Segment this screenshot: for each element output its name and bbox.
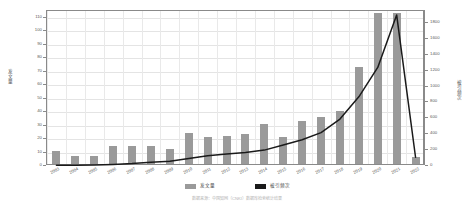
x-tick-label: 2009: [164, 167, 174, 175]
chart-legend: 发文量被引频次: [0, 184, 474, 189]
x-tick-label: 2007: [126, 167, 136, 175]
left-tick-label: 0: [40, 163, 42, 167]
legend-label: 被引频次: [270, 184, 290, 189]
x-tick-label: 2008: [145, 167, 155, 175]
x-tick-label: 2020: [372, 167, 382, 175]
left-tick-mark: [43, 138, 46, 139]
x-tick-label: 2005: [88, 167, 98, 175]
chart-caption: 数据来源：中国知网（CNKI）数据库检索统计结果: [0, 197, 474, 201]
legend-item[interactable]: 发文量: [185, 184, 215, 189]
legend-label: 发文量: [200, 184, 215, 189]
right-tick-label: 0: [430, 163, 432, 167]
right-tick-mark: [425, 149, 428, 150]
right-tick-mark: [425, 22, 428, 23]
right-tick-mark: [425, 38, 428, 39]
line-path: [56, 15, 415, 165]
right-axis-spine: [424, 10, 425, 165]
left-tick-label: 30: [37, 122, 42, 126]
right-tick-mark: [425, 133, 428, 134]
left-tick-mark: [43, 71, 46, 72]
left-tick-label: 100: [35, 28, 42, 32]
left-tick-mark: [43, 98, 46, 99]
x-tick-label: 2013: [239, 167, 249, 175]
left-tick-label: 110: [35, 15, 42, 19]
left-axis-spine: [46, 10, 47, 165]
right-tick-mark: [425, 70, 428, 71]
x-tick-label: 2015: [277, 167, 287, 175]
left-tick-mark: [43, 30, 46, 31]
x-tick-label: 2021: [391, 167, 401, 175]
left-tick-label: 60: [37, 82, 42, 86]
left-tick-label: 10: [37, 149, 42, 153]
left-tick-mark: [43, 84, 46, 85]
right-tick-label: 400: [430, 131, 437, 135]
x-tick-label: 2018: [334, 167, 344, 175]
x-tick-label: 2010: [183, 167, 193, 175]
right-tick-label: 1800: [430, 20, 440, 24]
left-tick-mark: [43, 44, 46, 45]
x-tick-label: 2019: [353, 167, 363, 175]
right-tick-mark: [425, 165, 428, 166]
left-tick-label: 50: [37, 95, 42, 99]
x-tick-label: 2003: [50, 167, 60, 175]
plot-area: [46, 10, 424, 165]
left-tick-label: 80: [37, 55, 42, 59]
left-tick-label: 40: [37, 109, 42, 113]
legend-swatch: [185, 184, 196, 189]
chart-figure: 0102030405060708090100110 02004006008001…: [0, 0, 474, 207]
line-series-layer: [47, 11, 425, 166]
right-tick-label: 1600: [430, 36, 440, 40]
x-tick-label: 2014: [258, 167, 268, 175]
left-tick-label: 90: [37, 42, 42, 46]
x-tick-label: 2011: [202, 167, 212, 175]
right-tick-label: 200: [430, 147, 437, 151]
left-tick-mark: [43, 111, 46, 112]
right-tick-label: 1400: [430, 52, 440, 56]
right-tick-mark: [425, 117, 428, 118]
x-tick-label: 2017: [315, 167, 325, 175]
x-tick-label: 2022: [409, 167, 419, 175]
right-tick-label: 1200: [430, 67, 440, 71]
x-tick-label: 2006: [107, 167, 117, 175]
right-tick-mark: [425, 54, 428, 55]
x-tick-label: 2012: [220, 167, 230, 175]
left-tick-mark: [43, 152, 46, 153]
left-axis-title: 发文量: [6, 69, 11, 84]
right-tick-label: 600: [430, 115, 437, 119]
right-tick-label: 1000: [430, 83, 440, 87]
left-tick-mark: [43, 125, 46, 126]
right-tick-mark: [425, 86, 428, 87]
legend-swatch: [255, 184, 266, 189]
legend-item[interactable]: 被引频次: [255, 184, 290, 189]
left-tick-label: 70: [37, 68, 42, 72]
left-tick-mark: [43, 57, 46, 58]
x-tick-label: 2004: [69, 167, 79, 175]
x-axis-labels: 2003200420052006200720082009201020112012…: [46, 167, 424, 179]
left-tick-mark: [43, 17, 46, 18]
right-axis-title: 被引频次: [455, 80, 460, 100]
x-tick-label: 2016: [296, 167, 306, 175]
right-tick-label: 800: [430, 99, 437, 103]
left-tick-mark: [43, 165, 46, 166]
right-tick-mark: [425, 101, 428, 102]
left-tick-label: 20: [37, 136, 42, 140]
